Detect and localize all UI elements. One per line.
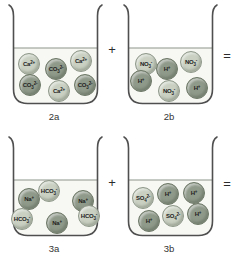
ion-hydrogen-ion: H+ — [156, 58, 178, 80]
ion-sodium-ion: Na+ — [18, 188, 40, 210]
ion-sodium-ion: Na+ — [46, 212, 68, 234]
ion-formula-label: Na+ — [52, 220, 62, 226]
ion-hydrogen-ion: H+ — [183, 182, 205, 204]
equals-operator: = — [218, 48, 235, 64]
ion-layer: SO42-H+H+H+SO42-H+ — [121, 136, 217, 239]
ion-calcium-ion: Ca2+ — [70, 50, 92, 72]
beaker-caption: 3a — [6, 243, 102, 254]
ion-formula-label: HCO3- — [81, 213, 97, 219]
ion-hydrogen-ion: H+ — [138, 210, 160, 232]
ion-formula-label: NO3- — [163, 88, 175, 94]
ion-calcium-ion: Ca2+ — [48, 80, 70, 102]
beaker-3a: Na+HCO3-Na+HCO3-Na+HCO3- 3a — [6, 136, 102, 258]
ion-formula-label: Na+ — [78, 198, 88, 204]
ion-layer: Ca2+CO32-Ca2+CO32-Ca2+CO32- — [6, 4, 102, 107]
ion-formula-label: CO32- — [23, 82, 38, 88]
ion-carbonate-ion: CO32- — [19, 74, 41, 96]
ion-formula-label: Ca2+ — [23, 61, 35, 67]
ion-hydrogen-ion: H+ — [187, 203, 209, 225]
ion-formula-label: H+ — [164, 66, 171, 72]
ion-formula-label: CO32- — [78, 82, 93, 88]
ion-nitrate-ion: NO3- — [158, 80, 180, 102]
ion-formula-label: H+ — [191, 190, 198, 196]
beaker-3b: SO42-H+H+H+SO42-H+ 3b — [121, 136, 217, 258]
ion-formula-label: HCO3- — [41, 188, 57, 194]
ion-formula-label: H+ — [195, 211, 202, 217]
ion-formula-label: H+ — [194, 85, 201, 91]
ion-formula-label: H+ — [165, 191, 172, 197]
ion-hydrogen-ion: H+ — [186, 77, 208, 99]
ion-formula-label: NO3- — [140, 61, 152, 67]
beaker-caption: 2b — [121, 111, 217, 122]
ion-formula-label: HCO3- — [14, 216, 30, 222]
ion-formula-label: H+ — [138, 78, 145, 84]
ion-formula-label: NO3- — [185, 59, 197, 65]
beaker-2b: NO3-H+NO3-H+NO3-H+ 2b — [121, 4, 217, 126]
ion-bicarbonate-ion: HCO3- — [38, 180, 60, 202]
beaker-2a: Ca2+CO32-Ca2+CO32-Ca2+CO32- 2a — [6, 4, 102, 126]
ion-formula-label: CO32- — [49, 66, 64, 72]
beaker-caption: 2a — [6, 111, 102, 122]
ion-carbonate-ion: CO32- — [74, 74, 96, 96]
ion-hydrogen-ion: H+ — [130, 70, 152, 92]
ion-formula-label: Ca2+ — [53, 88, 65, 94]
ion-calcium-ion: Ca2+ — [18, 53, 40, 75]
ion-carbonate-ion: CO32- — [45, 58, 67, 80]
plus-operator: + — [103, 175, 121, 191]
ion-formula-label: H+ — [146, 218, 153, 224]
ionic-solutions-figure: Ca2+CO32-Ca2+CO32-Ca2+CO32- 2a + NO3-H+N… — [0, 0, 235, 264]
ion-bicarbonate-ion: HCO3- — [78, 205, 100, 227]
beaker-caption: 3b — [121, 243, 217, 254]
ion-formula-label: SO42- — [166, 213, 180, 219]
plus-operator: + — [103, 42, 121, 58]
ion-layer: Na+HCO3-Na+HCO3-Na+HCO3- — [6, 136, 102, 239]
ion-formula-label: SO42- — [136, 195, 150, 201]
ion-bicarbonate-ion: HCO3- — [11, 208, 33, 230]
ion-formula-label: Na+ — [24, 196, 34, 202]
ion-nitrate-ion: NO3- — [180, 51, 202, 73]
equals-operator: = — [218, 176, 235, 192]
ion-formula-label: Ca2+ — [75, 58, 87, 64]
ion-sulfate-ion: SO42- — [162, 205, 184, 227]
ion-hydrogen-ion: H+ — [157, 183, 179, 205]
ion-layer: NO3-H+NO3-H+NO3-H+ — [121, 4, 217, 107]
ion-sulfate-ion: SO42- — [132, 187, 154, 209]
